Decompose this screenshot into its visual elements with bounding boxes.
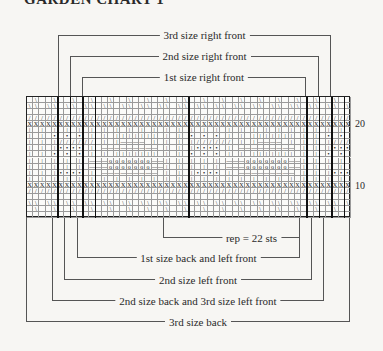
bottom-bracket (26, 217, 350, 322)
size-boundary-line (319, 97, 321, 218)
size-boundary-line (70, 97, 72, 218)
bracket-label: 2nd size right front (158, 50, 250, 62)
row-number-label: 20 (355, 118, 365, 129)
chart-title: GARDEN CHART 1 (24, 0, 164, 8)
size-boundary-line (188, 97, 190, 218)
chart-cell (345, 212, 351, 218)
size-boundary-line (82, 97, 84, 218)
size-boundary-line (306, 97, 308, 218)
bracket-label: 3rd size right front (159, 29, 249, 41)
knitting-chart-grid: \\\\\\\\\\\\\\\\\\\\\\\\\\\\\\\\\\\\\\\\… (26, 96, 350, 217)
bracket-label: 1st size right front (160, 71, 248, 83)
bracket-label: 3rd size back (165, 316, 231, 328)
size-boundary-line (57, 97, 59, 218)
size-boundary-line (95, 97, 97, 218)
size-boundary-line (344, 97, 346, 218)
size-boundary-line (331, 97, 333, 218)
row-number-label: 10 (355, 180, 365, 191)
